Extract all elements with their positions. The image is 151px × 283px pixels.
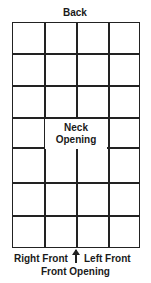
opening-label: Opening [56, 134, 97, 146]
left-front-label: Left Front [84, 253, 131, 264]
front-opening-label: Front Opening [41, 266, 110, 277]
neck-label: Neck [64, 122, 88, 134]
grid-hline-2 [12, 85, 140, 87]
grid-vline-2-upper [76, 22, 78, 118]
grid-hline-1 [12, 53, 140, 55]
right-front-label: Right Front [14, 253, 68, 264]
grid-hline-6 [12, 215, 140, 217]
grid-hline-5 [12, 182, 140, 184]
back-label: Back [63, 7, 87, 18]
neck-opening-cell: Neck Opening [45, 119, 107, 149]
grid-vline-2-lower [76, 148, 78, 248]
arrow-shaft [75, 250, 77, 263]
garment-grid: Neck Opening [12, 22, 140, 248]
